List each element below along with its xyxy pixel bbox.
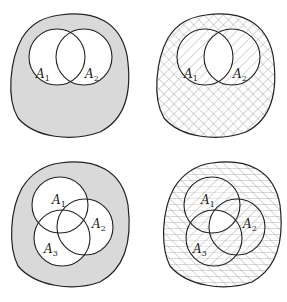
panel-top-right: A1 A2	[150, 0, 287, 150]
inner-regions-hatch-horizontal	[150, 150, 287, 302]
venn-figure: A1 A2 A1 A2 A1 A2 A3	[0, 0, 287, 302]
symmetric-difference-hatch	[150, 0, 287, 150]
panel-bottom-right: A1 A2 A3	[150, 150, 287, 302]
panel-top-left: A1 A2	[11, 14, 129, 137]
panel-bottom-left: A1 A2 A3	[12, 162, 130, 287]
